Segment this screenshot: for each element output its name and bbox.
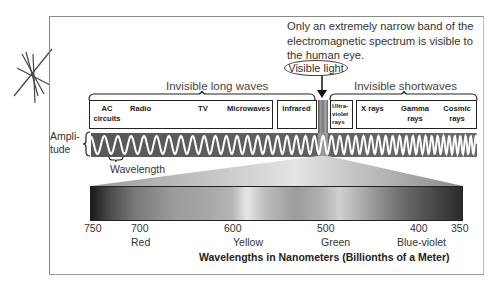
tick-600: 600	[224, 222, 242, 234]
band-gamma-rays: Gamma rays	[397, 104, 433, 124]
color-red: Red	[131, 236, 150, 248]
tick-700: 700	[131, 222, 149, 234]
long-waves-box: AC circuits Radio TV Microwaves	[89, 100, 273, 129]
wave-band	[91, 133, 477, 157]
color-green: Green	[321, 236, 350, 248]
tick-750: 750	[84, 222, 102, 234]
visible-spectrum-bar	[90, 186, 463, 221]
band-ultraviolet: Ultra-violet rays	[331, 102, 352, 125]
color-yellow: Yellow	[233, 236, 263, 248]
infrared-box: Infrared	[277, 100, 317, 129]
shortwaves-box: X rays Gamma rays Cosmic rays	[356, 100, 477, 129]
down-arrow-icon	[316, 76, 328, 100]
tick-350: 350	[451, 222, 469, 234]
tick-500: 500	[317, 222, 335, 234]
band-radio: Radio	[130, 104, 151, 114]
band-tv: TV	[198, 104, 208, 114]
amplitude-label: Ampli-tude	[50, 130, 84, 156]
band-ac-circuits: AC circuits	[90, 104, 124, 124]
ultraviolet-box: Ultra-violet rays	[330, 100, 353, 129]
band-cosmic-rays: Cosmic rays	[439, 104, 475, 124]
band-infrared: Infrared	[278, 104, 315, 114]
amplitude-brace	[83, 131, 91, 157]
visible-light-label: Visible light	[284, 60, 348, 76]
band-x-rays: X rays	[361, 104, 384, 114]
caption-text: Only an extremely narrow band of the ele…	[287, 19, 487, 63]
tick-400: 400	[410, 222, 428, 234]
color-blue-violet: Blue-violet	[397, 236, 446, 248]
axis-title: Wavelengths in Nanometers (Billionths of…	[199, 251, 449, 263]
band-microwaves: Microwaves	[227, 104, 270, 114]
visible-expansion-fan	[0, 155, 490, 187]
